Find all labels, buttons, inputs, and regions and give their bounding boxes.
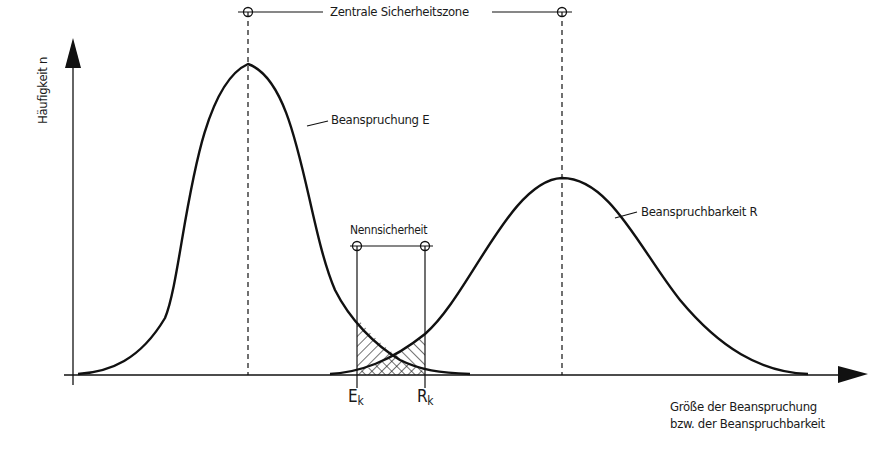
marker-rk-sub: k bbox=[427, 394, 433, 408]
curve-beanspruchung-e bbox=[78, 64, 470, 374]
leader-line-e bbox=[307, 121, 328, 126]
marker-rk-label: Rk bbox=[417, 388, 433, 405]
x-axis-arrow-icon bbox=[838, 366, 868, 383]
x-axis-label-line1: Größe der Beanspruchung bbox=[670, 400, 817, 413]
y-axis-arrow-icon bbox=[65, 38, 81, 68]
diagram-canvas bbox=[0, 0, 894, 450]
y-axis-label: Häufigkeit n bbox=[36, 57, 49, 124]
y-axis bbox=[65, 38, 81, 385]
nennsicherheit-label: Nennsicherheit bbox=[350, 224, 427, 236]
marker-rk-main: R bbox=[417, 386, 427, 406]
zentrale-sicherheitszone-label: Zentrale Sicherheitszone bbox=[330, 5, 469, 18]
marker-ek-sub: k bbox=[357, 394, 363, 408]
marker-ek-main: E bbox=[348, 386, 357, 406]
curve-r-label: Beanspruchbarkeit R bbox=[641, 205, 757, 218]
x-axis-label-line2: bzw. der Beanspruchbarkeit bbox=[670, 417, 825, 430]
curve-e-label: Beanspruchung E bbox=[331, 113, 429, 126]
marker-ek-label: Ek bbox=[348, 388, 363, 405]
